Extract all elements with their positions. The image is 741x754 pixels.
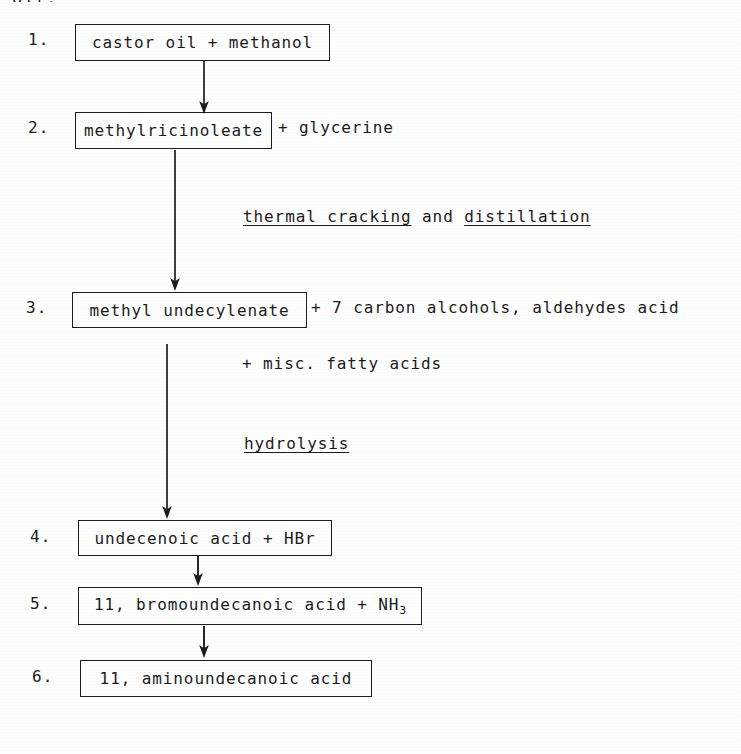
step-number-4: 4. (30, 527, 51, 546)
step-2-trailing-text: + glycerine (278, 118, 394, 137)
annotation-thermal-cracking-part1: thermal cracking (243, 207, 412, 226)
step-box-5: 11, bromoundecanoic acid + NH3 (78, 587, 422, 625)
annotation-thermal-cracking-part2: distillation (464, 207, 590, 226)
step-box-3: methyl undecylenate (72, 292, 307, 328)
clipped-header-fragment: oil. (12, 0, 58, 2)
annotation-thermal-cracking-conjunction: and (412, 207, 465, 226)
arrow-step2-step3 (167, 150, 183, 292)
arrow-step4-step5 (190, 556, 206, 587)
step-number-1: 1. (28, 30, 49, 49)
step-box-2-label: methylricinoleate (84, 121, 263, 140)
step-box-3-label: methyl undecylenate (89, 301, 289, 320)
step-box-1: castor oil + methanol (75, 24, 330, 61)
step-3-trailing-text: + 7 carbon alcohols, aldehydes acid (311, 298, 680, 317)
step-box-2: methylricinoleate (75, 112, 272, 149)
step-box-5-label: 11, bromoundecanoic acid + NH3 (94, 595, 406, 617)
arrow-step1-step2 (196, 61, 212, 115)
step-box-4-label: undecenoic acid + HBr (94, 529, 315, 548)
step-number-6: 6. (32, 667, 53, 686)
arrow-step5-step6 (196, 626, 212, 659)
step-number-5: 5. (30, 594, 51, 613)
step-box-6: 11, aminoundecanoic acid (80, 660, 372, 697)
process-flow-diagram: oil. 1. castor oil + methanol 2. methylr… (0, 0, 741, 754)
annotation-hydrolysis: hydrolysis (244, 434, 349, 453)
step-box-6-label: 11, aminoundecanoic acid (100, 669, 353, 688)
step-box-1-label: castor oil + methanol (92, 33, 313, 52)
step-box-5-label-text: 11, bromoundecanoic acid + NH (94, 595, 399, 614)
annotation-thermal-cracking: thermal cracking and distillation (243, 207, 591, 226)
arrow-step3-step4 (159, 344, 175, 520)
step-number-3: 3. (26, 298, 47, 317)
step-number-2: 2. (28, 118, 49, 137)
step-3-extra-line: + misc. fatty acids (242, 354, 442, 373)
step-box-5-label-subscript: 3 (399, 604, 406, 617)
step-box-4: undecenoic acid + HBr (78, 520, 332, 556)
annotation-hydrolysis-label: hydrolysis (244, 434, 349, 453)
